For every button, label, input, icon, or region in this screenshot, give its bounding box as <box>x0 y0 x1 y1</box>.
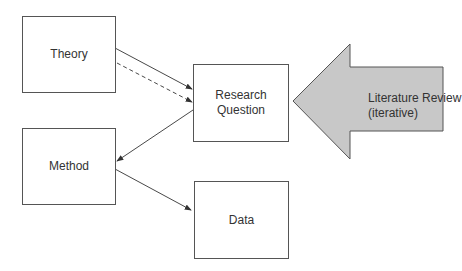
literature-review-line-1: Literature Review <box>368 91 461 106</box>
literature-review-line-2: (iterative) <box>368 106 461 121</box>
literature-review-label: Literature Review (iterative) <box>368 91 461 121</box>
node-theory: Theory <box>22 16 116 93</box>
edge-theory-research-solid <box>115 48 192 89</box>
node-research-label-2: Question <box>215 103 266 118</box>
node-data-label: Data <box>229 213 254 228</box>
node-method: Method <box>22 128 116 205</box>
node-research-label-1: Research <box>215 88 266 103</box>
node-method-label: Method <box>49 159 89 174</box>
node-theory-label: Theory <box>50 47 87 62</box>
edge-research-method <box>117 110 193 161</box>
edge-method-data <box>115 169 191 210</box>
node-data: Data <box>194 181 289 259</box>
node-research-question: Research Question <box>193 64 289 142</box>
